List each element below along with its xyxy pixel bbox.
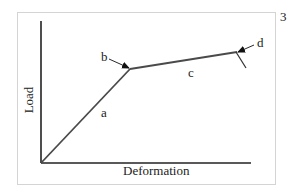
figure-number: 3	[280, 9, 287, 25]
arrow-to-b	[109, 59, 129, 68]
arrow-to-d	[238, 45, 254, 52]
y-axis-label: Load	[21, 87, 37, 114]
load-deformation-figure: 3 Load Deformation b d c a	[0, 0, 300, 194]
label-d: d	[257, 36, 264, 49]
label-b: b	[101, 50, 108, 63]
segment-c-plastic	[130, 52, 237, 69]
x-axis-label: Deformation	[123, 163, 189, 179]
label-c: c	[188, 66, 194, 79]
fracture-tick	[236, 52, 246, 68]
label-a: a	[101, 106, 107, 119]
segment-a-elastic	[41, 69, 130, 163]
